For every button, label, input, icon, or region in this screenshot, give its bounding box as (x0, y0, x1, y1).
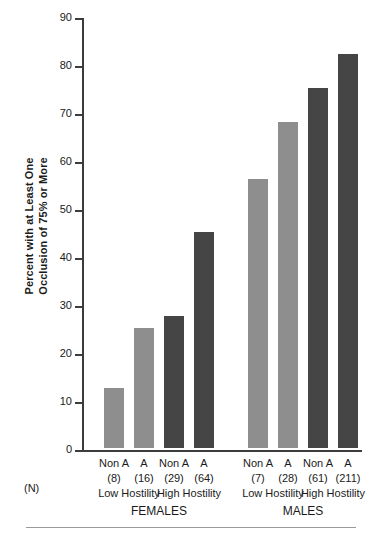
footer-divider (26, 527, 356, 528)
x-n-label: (64) (174, 471, 234, 486)
y-axis-label-line1: Percent with at Least One (23, 158, 35, 295)
tick-label: 0 (46, 442, 72, 456)
tick-label: 50 (46, 202, 72, 216)
tick-mark (75, 66, 82, 68)
tick-mark (75, 114, 82, 116)
sex-group-labels: FEMALESMALES (82, 503, 362, 521)
bar (338, 54, 358, 448)
tick-mark (75, 354, 82, 356)
tick-mark (75, 210, 82, 212)
tick-label: 40 (46, 250, 72, 264)
tick-mark (75, 18, 82, 20)
x-axis-baseline (82, 450, 362, 452)
bar-chart-figure: Percent with at Least One Occlusion of 7… (0, 0, 376, 536)
tick-label: 70 (46, 106, 72, 120)
tick-mark (75, 306, 82, 308)
tick-label: 30 (46, 298, 72, 312)
tick-label: 80 (46, 58, 72, 72)
tick-mark (75, 258, 82, 260)
x-n-label: (211) (318, 471, 376, 486)
x-category-label: A (318, 456, 376, 471)
tick-mark (75, 450, 82, 452)
bar (248, 179, 268, 448)
bar (104, 388, 124, 448)
bar (134, 328, 154, 448)
tick-mark (75, 402, 82, 404)
tick-mark (75, 162, 82, 164)
tick-label: 10 (46, 394, 72, 408)
hostility-group-label: High Hostility (144, 486, 234, 501)
bar (164, 316, 184, 448)
tick-label: 20 (46, 346, 72, 360)
y-axis-line (82, 18, 84, 452)
sex-group-label: FEMALES (109, 503, 209, 519)
y-axis-label-line2: Occlusion of 75% or More (36, 157, 50, 294)
hostility-group-label: High Hostility (288, 486, 376, 501)
n-row-label: (N) (24, 481, 39, 495)
bar (194, 232, 214, 448)
tick-label: 90 (46, 10, 72, 24)
plot-area: 0102030405060708090 (82, 18, 360, 450)
sex-group-label: MALES (253, 503, 353, 519)
bar (308, 88, 328, 448)
x-category-label: A (174, 456, 234, 471)
tick-label: 60 (46, 154, 72, 168)
bar (278, 122, 298, 448)
